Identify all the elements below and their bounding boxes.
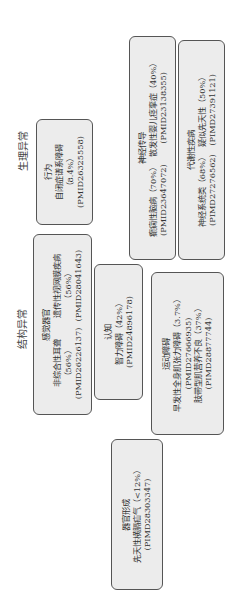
neuro-item-pmid: (PMID23138355) [158,72,168,144]
box-metabolic-title: 代谢性疾病 [186,44,196,256]
category-label-physiological: 生理异常 [18,127,30,175]
sensory-item-pmid: (PMID26226137) [73,328,83,400]
neuro-item-infantile-spasm: 散发性婴儿痉挛症（40%） (PMID23138355) [148,59,169,157]
box-behavior-title: 行为 [43,123,53,221]
category-label-structural: 结构异常 [17,306,29,352]
metabolic-item-neuro: 神经系统类（68%） (PIMD27276562) [197,153,218,227]
neuro-item-pmid: (PMID23647072) [158,164,168,236]
box-organogenesis: 器官形成 先天性横膈疝气（<12%） (PIMD28303347) [111,439,163,590]
sensory-item-name: 遗传性视网膜疾病 [52,254,62,318]
neuro-item-name: 癫痫性脑病（70%） [148,163,158,237]
motor-item-pmid: (PMID27666935) [183,276,193,431]
box-sensory-title: 感觉器官 [41,238,51,411]
sensory-item-pct: （56%） [63,269,73,303]
cognition-item-pmid: (PMID24896178) [124,268,134,396]
box-motor-disorders: 运动障碍 早发性全身肌张力障碍（3.7%） (PMID27666935) 肢带型… [151,272,224,435]
behavior-item-pmid: (PMID26325558) [75,123,85,221]
diagram-canvas: 生理异常 结构异常 行为 自闭症谱系障碍 （8.4%） (PMID2632555… [0,0,240,610]
box-sensory-organs: 感觉器官 非综合性耳聋 （56%） (PMID26226137) 遗传性视网膜疾… [33,234,92,415]
box-cognition: 认知 智力障碍（42%） (PMID24896178) [94,264,143,400]
organogenesis-item-pmid: (PIMD28303347) [142,443,152,586]
box-neuro-conduction: 神经传导 癫痫性脑病（70%） (PMID23647072) 散发性婴儿痉挛症（… [129,36,176,260]
neuro-item-name: 散发性婴儿痉挛症（40%） [148,59,158,157]
sensory-item-retinal: 遗传性视网膜疾病 （56%） (PMID28041643) [52,250,83,322]
neuro-item-epileptic: 癫痫性脑病（70%） (PMID23647072) [148,163,169,237]
behavior-item-pct: （8.4%） [65,123,75,221]
metabolic-item-name: 疑似先天性（50%） [197,73,207,147]
box-organogenesis-title: 器官形成 [121,443,131,586]
motor-item-name: 肢带型肌营养不良（37%） [193,276,203,431]
sensory-item-pmid: (PMID28041643) [73,250,83,322]
metabolic-item-pmid: (PIMD27391121) [207,74,217,146]
behavior-item-name: 自闭症谱系障碍 [54,123,64,221]
metabolic-item-pmid: (PIMD27276562) [207,154,217,226]
metabolic-item-name: 神经系统类（68%） [197,153,207,227]
box-metabolic: 代谢性疾病 神经系统类（68%） (PIMD27276562) 疑似先天性（50… [178,40,225,260]
box-cognition-title: 认知 [103,268,113,396]
sensory-item-deafness: 非综合性耳聋 （56%） (PMID26226137) [52,328,83,400]
organogenesis-item-name: 先天性横膈疝气（<12%） [132,443,142,586]
box-neuro-title: 神经传导 [137,40,147,256]
sensory-item-pct: （56%） [63,346,73,380]
motor-item-pmid: (PIMD28877744) [203,276,213,431]
cognition-item-name: 智力障碍（42%） [114,268,124,396]
sensory-item-name: 非综合性耳聋 [52,339,62,387]
box-motor-title: 运动障碍 [161,276,171,431]
box-behavior: 行为 自闭症谱系障碍 （8.4%） (PMID26325558) [36,119,93,225]
motor-item-name: 早发性全身肌张力障碍（3.7%） [172,276,182,431]
metabolic-item-congenital: 疑似先天性（50%） (PIMD27391121) [197,73,218,147]
